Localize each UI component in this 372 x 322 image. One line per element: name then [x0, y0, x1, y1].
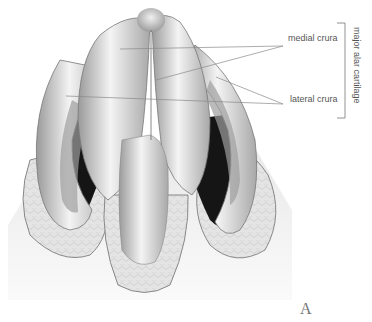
alar-cartilage-illustration: [0, 0, 372, 322]
group-bracket: [337, 23, 345, 118]
panel-letter: A: [300, 300, 312, 318]
medial-crura-label: medial crura: [288, 33, 338, 43]
lateral-crura-label: lateral crura: [290, 94, 338, 104]
major-alar-cartilage-label: major alar cartilage: [352, 27, 362, 104]
nasal-tip: [137, 8, 165, 32]
columella: [119, 135, 168, 264]
